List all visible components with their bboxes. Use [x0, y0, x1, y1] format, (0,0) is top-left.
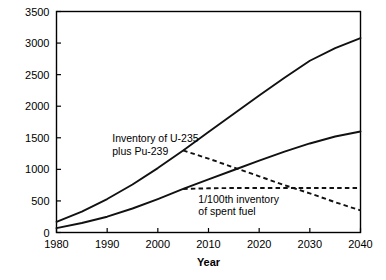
annotation-line: plus Pu-239	[112, 145, 168, 157]
annotation-line: Inventory of U-235	[112, 132, 199, 144]
y-axis-tick-labels: 0500100015002000250030003500	[25, 6, 49, 239]
x-tick-label: 1990	[95, 238, 119, 250]
series-line	[183, 188, 360, 189]
x-axis-tick-labels: 1980199020002010202020302040	[44, 238, 372, 250]
annotation-layer: Inventory of U-235plus Pu-2391/100th inv…	[112, 132, 279, 217]
inventory-line-chart: 0500100015002000250030003500 19801990200…	[0, 0, 386, 280]
x-tick-label: 1980	[44, 238, 68, 250]
annotation-line: of spent fuel	[198, 205, 255, 217]
x-axis-title: Year	[197, 256, 221, 268]
x-tick-label: 2020	[247, 238, 271, 250]
y-tick-label: 1500	[25, 132, 49, 144]
x-tick-label: 2010	[196, 238, 220, 250]
y-tick-label: 3500	[25, 6, 49, 18]
fissile-inventory-label: Inventory of U-235plus Pu-239	[112, 132, 199, 157]
annotation-line: 1/100th inventory	[198, 193, 279, 205]
x-tick-label: 2000	[146, 238, 170, 250]
y-tick-label: 2000	[25, 100, 49, 112]
y-tick-label: 1000	[25, 163, 49, 175]
y-tick-label: 500	[31, 195, 49, 207]
x-tick-label: 2040	[348, 238, 372, 250]
y-tick-label: 3000	[25, 37, 49, 49]
chart-figure: 0500100015002000250030003500 19801990200…	[0, 0, 386, 280]
spent-fuel-label: 1/100th inventoryof spent fuel	[198, 193, 279, 218]
y-tick-label: 2500	[25, 69, 49, 81]
x-tick-label: 2030	[298, 238, 322, 250]
